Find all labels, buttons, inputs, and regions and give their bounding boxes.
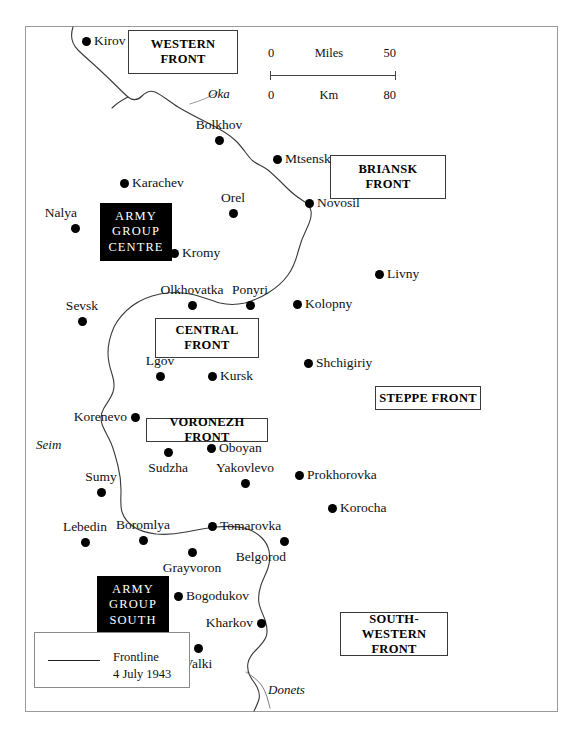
front-label-steppe: STEPPE FRONT <box>375 386 481 410</box>
city-label: Karachev <box>132 176 184 190</box>
city-dot-icon <box>174 592 183 601</box>
legend-frontline-label: Frontline <box>113 649 171 666</box>
city-label: Shchigiriy <box>316 356 372 370</box>
city-label: Sevsk <box>66 299 98 313</box>
front-label-line: FRONT <box>341 642 447 657</box>
city-dot-icon <box>82 37 91 46</box>
legend-box: Frontline 4 July 1943 <box>34 632 190 688</box>
city-dot-icon <box>120 179 129 188</box>
city-dot-icon <box>304 359 313 368</box>
city-dot-icon <box>170 249 179 258</box>
front-label-briansk: BRIANSKFRONT <box>330 155 446 199</box>
city-dot-icon <box>293 300 302 309</box>
city-label: Grayvoron <box>163 561 221 575</box>
city-label: Korocha <box>340 501 386 515</box>
city-label: Boromlya <box>116 518 170 532</box>
army-group-label-line: CENTRE <box>108 240 163 256</box>
city-label: Sudzha <box>148 461 188 475</box>
city-dot-icon <box>273 155 282 164</box>
city-label: Bogodukov <box>186 589 249 603</box>
city-label: Yakovlevo <box>216 461 274 475</box>
front-label-text: BRIANSKFRONT <box>358 162 417 192</box>
scale-miles-unit: Miles <box>274 46 383 61</box>
river-label-seim: Seim <box>36 437 61 453</box>
city-label: Ponyri <box>232 283 268 297</box>
city-dot-icon <box>97 488 106 497</box>
city-dot-icon <box>305 199 314 208</box>
city-dot-icon <box>78 317 87 326</box>
city-label: Belgorod <box>236 550 286 564</box>
city-label: Orel <box>221 191 245 205</box>
scale-miles-row: 0 Miles 50 <box>268 46 396 61</box>
army-group-label-line: ARMY <box>108 209 163 225</box>
city-dot-icon <box>139 536 148 545</box>
city-label: Kirov <box>94 34 126 48</box>
city-label: Livny <box>387 267 419 281</box>
city-dot-icon <box>241 479 250 488</box>
city-dot-icon <box>257 619 266 628</box>
city-label: Kursk <box>220 369 253 383</box>
city-dot-icon <box>208 372 217 381</box>
army-group-label-line: GROUP <box>109 597 157 613</box>
army-group-label-line: GROUP <box>108 224 163 240</box>
city-dot-icon <box>328 504 337 513</box>
city-dot-icon <box>188 548 197 557</box>
army-group-label-text: ARMYGROUPSOUTH <box>109 582 157 629</box>
city-dot-icon <box>188 301 197 310</box>
city-label: Kolopny <box>305 297 352 311</box>
front-label-line: STEPPE FRONT <box>379 391 477 406</box>
river-label-oka: Oka <box>208 86 230 102</box>
city-dot-icon <box>215 136 224 145</box>
army-group-label-south: ARMYGROUPSOUTH <box>97 576 169 634</box>
front-label-text: WESTERNFRONT <box>151 37 216 67</box>
front-label-line: FRONT <box>358 177 417 192</box>
front-label-line: SOUTH-WESTERN <box>341 612 447 642</box>
legend-date-label: 4 July 1943 <box>113 666 171 683</box>
front-label-line: FRONT <box>151 52 216 67</box>
army-group-label-line: SOUTH <box>109 613 157 629</box>
city-label: Nalya <box>45 206 77 220</box>
front-label-line: FRONT <box>175 338 238 353</box>
front-label-western: WESTERNFRONT <box>128 30 238 74</box>
legend-frontline-swatch <box>48 660 100 661</box>
city-dot-icon <box>71 224 80 233</box>
city-label: Mtsensk <box>285 152 331 166</box>
front-label-text: STEPPE FRONT <box>379 391 477 406</box>
city-dot-icon <box>295 471 304 480</box>
scale-km-unit: Km <box>274 88 383 103</box>
city-label: Kharkov <box>206 616 253 630</box>
scale-km-max: 80 <box>384 88 397 103</box>
city-dot-icon <box>207 444 216 453</box>
scale-km-row: 0 Km 80 <box>268 88 396 103</box>
city-label: Prokhorovka <box>307 468 377 482</box>
city-dot-icon <box>208 522 217 531</box>
city-dot-icon <box>280 537 289 546</box>
army-group-label-centre: ARMYGROUPCENTRE <box>100 203 172 261</box>
city-label: Kromy <box>182 246 220 260</box>
city-label: Bolkhov <box>196 118 243 132</box>
front-label-line: BRIANSK <box>358 162 417 177</box>
scale-bar-rule <box>270 71 396 80</box>
front-label-text: CENTRALFRONT <box>175 323 238 353</box>
city-dot-icon <box>131 413 140 422</box>
scale-bar: 0 Miles 50 0 Km 80 <box>268 46 396 108</box>
city-dot-icon <box>375 270 384 279</box>
city-label: Korenevo <box>74 410 127 424</box>
scale-miles-max: 50 <box>384 46 397 61</box>
city-label: Novosil <box>317 196 360 210</box>
army-group-label-line: ARMY <box>109 582 157 598</box>
river-label-donets: Donets <box>268 682 305 698</box>
city-dot-icon <box>164 448 173 457</box>
city-dot-icon <box>246 301 255 310</box>
city-dot-icon <box>81 538 90 547</box>
city-label: Olkhovatka <box>161 283 224 297</box>
front-label-voronezh: VORONEZH FRONT <box>146 418 268 442</box>
city-dot-icon <box>156 372 165 381</box>
city-label: Lebedin <box>63 520 107 534</box>
front-label-line: WESTERN <box>151 37 216 52</box>
city-dot-icon <box>194 644 203 653</box>
legend-text: Frontline 4 July 1943 <box>113 649 171 683</box>
map-root: 0 Miles 50 0 Km 80 WESTERNFRONTBRIANSKFR… <box>0 0 580 734</box>
city-dot-icon <box>229 209 238 218</box>
city-label: Lgov <box>146 354 175 368</box>
